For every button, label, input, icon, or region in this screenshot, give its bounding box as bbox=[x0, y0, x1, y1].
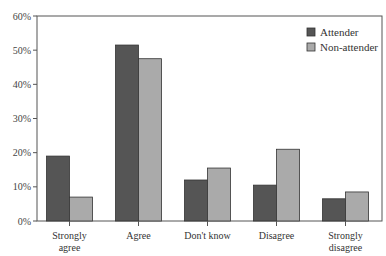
bar-attender-strongly-agree bbox=[47, 156, 70, 221]
bar-non-attender-strongly-agree bbox=[70, 197, 93, 221]
bar-attender-disagree bbox=[254, 185, 277, 221]
legend-label: Non-attender bbox=[320, 41, 378, 53]
y-tick-label: 30% bbox=[13, 113, 31, 124]
bar-attender-don-t-know bbox=[185, 180, 208, 221]
y-tick-label: 50% bbox=[13, 45, 31, 56]
bar-chart: 0%10%20%30%40%50%60% StronglyagreeAgreeD… bbox=[0, 0, 386, 256]
y-tick-label: 20% bbox=[13, 147, 31, 158]
bar-non-attender-disagree bbox=[277, 149, 300, 221]
y-tick-label: 60% bbox=[13, 11, 31, 22]
y-tick-label: 40% bbox=[13, 79, 31, 90]
bar-attender-strongly-disagree bbox=[323, 199, 346, 221]
bar-non-attender-don-t-know bbox=[208, 168, 231, 221]
x-category-label: agree bbox=[59, 242, 81, 253]
bar-non-attender-agree bbox=[139, 59, 162, 221]
legend-label: Attender bbox=[320, 26, 359, 38]
x-category-label: Agree bbox=[126, 230, 151, 241]
x-category-label: Strongly bbox=[328, 230, 362, 241]
legend-swatch bbox=[307, 28, 315, 36]
x-category-label: Don't know bbox=[184, 230, 231, 241]
legend: AttenderNon-attender bbox=[307, 26, 378, 53]
bars bbox=[47, 45, 369, 221]
y-tick-label: 10% bbox=[13, 181, 31, 192]
bar-attender-agree bbox=[116, 45, 139, 221]
x-category-label: disagree bbox=[329, 242, 363, 253]
x-axis-labels: StronglyagreeAgreeDon't knowDisagreeStro… bbox=[52, 221, 362, 253]
bar-non-attender-strongly-disagree bbox=[346, 192, 369, 221]
x-category-label: Strongly bbox=[52, 230, 86, 241]
y-tick-label: 0% bbox=[18, 216, 31, 227]
legend-swatch bbox=[307, 43, 315, 51]
x-category-label: Disagree bbox=[259, 230, 295, 241]
